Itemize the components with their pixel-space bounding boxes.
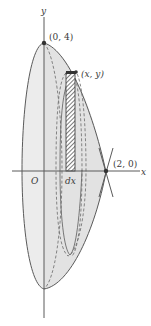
curve-point-label: (x, y) (81, 69, 104, 79)
top-point-marker (42, 41, 46, 45)
right-point-label: (2, 0) (113, 159, 137, 169)
x-axis-label: x (141, 167, 146, 177)
y-axis-label: y (40, 6, 47, 16)
hatched-strip (66, 73, 75, 171)
origin-label: O (31, 176, 39, 186)
top-point-label: (0, 4) (49, 32, 73, 42)
right-point-marker (104, 169, 108, 173)
curve-point-marker (74, 70, 78, 74)
shell-method-figure: y x O (0, 4) (x, y) (2, 0) dx (0, 0, 151, 326)
solid-body (22, 43, 106, 289)
dx-label: dx (65, 176, 76, 186)
